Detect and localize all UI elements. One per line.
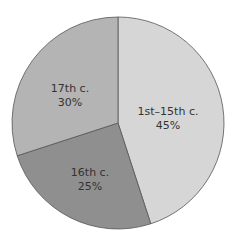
- pie-chart: 1st–15th c. 45% 16th c. 25% 17th c. 30%: [0, 0, 235, 236]
- slice-name: 1st–15th c.: [138, 105, 199, 118]
- slice-name: 16th c.: [71, 166, 109, 179]
- slice-percent: 45%: [156, 119, 180, 132]
- slice-percent: 30%: [58, 96, 82, 109]
- slice-percent: 25%: [78, 180, 102, 193]
- slice-name: 17th c.: [51, 82, 89, 95]
- pie-slices: [12, 17, 224, 229]
